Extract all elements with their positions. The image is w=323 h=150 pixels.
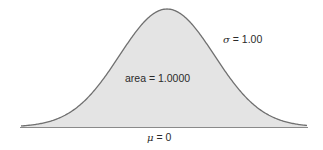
sigma-value: = 1.00	[230, 33, 262, 45]
area-under-curve	[21, 9, 307, 128]
sigma-symbol: σ	[223, 34, 230, 45]
sigma-label: σ = 1.00	[223, 33, 262, 45]
mu-label: μ = 0	[147, 131, 171, 143]
mu-value: = 0	[154, 131, 172, 143]
area-label: area = 1.0000	[125, 72, 190, 84]
